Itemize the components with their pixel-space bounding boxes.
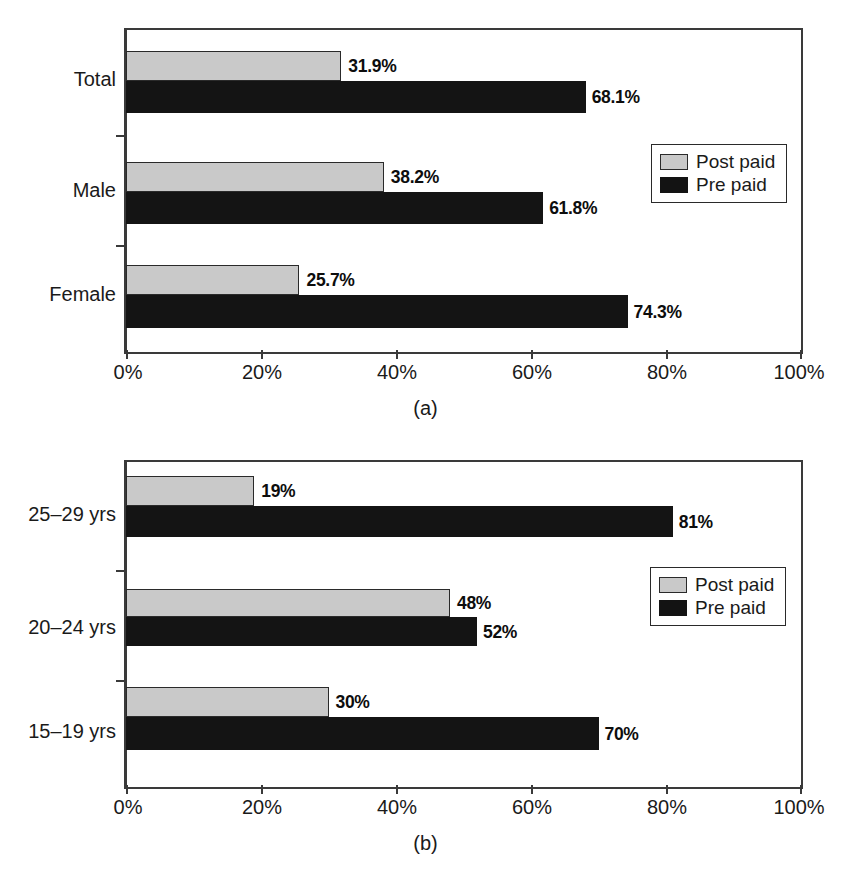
bar-value-female-post-paid: 25.7% [306,270,354,291]
x-axis-label-0: 0% [114,361,143,384]
legend-swatch-pre-paid-icon [660,177,688,193]
panel-caption-a: (a) [0,397,851,420]
category-label-20-24: 20–24 yrs [0,616,116,639]
bar-value-15-19-pre-paid: 70% [605,723,639,744]
legend-b: Post paid Pre paid [650,567,786,626]
bar-female-pre-paid: 74.3% [126,295,628,328]
bar-value-male-pre-paid: 61.8% [549,198,597,219]
bar-20-24-post-paid: 48% [126,589,450,617]
category-label-total: Total [0,68,116,91]
bar-value-female-pre-paid: 74.3% [634,301,682,322]
legend-label-post-paid: Post paid [696,152,775,171]
bar-value-20-24-post-paid: 48% [457,593,491,614]
plot-area-a: 31.9% 68.1% 38.2% 61.8% 25.7% 74.3% [126,28,803,354]
legend-label-pre-paid: Pre paid [695,598,766,617]
bar-total-pre-paid: 68.1% [126,81,586,113]
x-axis-tick [800,350,802,359]
x-axis-label-80: 80% [647,361,687,384]
x-axis-label-20: 20% [242,796,282,819]
bar-25-29-post-paid: 19% [126,476,254,506]
bar-female-post-paid: 25.7% [126,265,299,295]
x-axis-tick [531,785,533,794]
x-axis-tick [261,350,263,359]
figure-panel-a: Total Male Female 31.9% 68.1% 38.2% 61.8… [0,0,851,440]
x-axis-tick [396,785,398,794]
bar-male-post-paid: 38.2% [126,162,384,192]
legend-label-post-paid: Post paid [695,575,774,594]
category-label-male: Male [0,179,116,202]
x-axis-tick [800,785,802,794]
bar-15-19-post-paid: 30% [126,687,329,717]
category-label-15-19: 15–19 yrs [0,720,116,743]
legend-a: Post paid Pre paid [651,144,787,203]
figure-panel-b: 25–29 yrs 20–24 yrs 15–19 yrs 19% 81% 48… [0,432,851,873]
bar-value-total-pre-paid: 68.1% [592,87,640,108]
x-axis-label-60: 60% [512,361,552,384]
x-axis-tick [261,785,263,794]
x-axis-label-60: 60% [512,796,552,819]
legend-row-post-paid: Post paid [660,150,777,173]
legend-row-post-paid: Post paid [659,573,776,596]
x-axis-tick [666,350,668,359]
bar-15-19-pre-paid: 70% [126,717,599,750]
panel-caption-b: (b) [0,832,851,855]
bar-male-pre-paid: 61.8% [126,192,543,224]
x-axis-tick [666,785,668,794]
category-label-female: Female [0,283,116,306]
x-axis-tick [396,350,398,359]
bar-value-male-post-paid: 38.2% [391,167,439,188]
legend-label-pre-paid: Pre paid [696,175,767,194]
bar-value-25-29-pre-paid: 81% [679,511,713,532]
x-axis-tick [126,785,128,794]
x-axis-label-100: 100% [773,796,824,819]
legend-swatch-post-paid-icon [659,577,687,593]
bar-20-24-pre-paid: 52% [126,617,477,646]
x-axis-label-80: 80% [647,796,687,819]
x-axis-tick [126,350,128,359]
bar-value-total-post-paid: 31.9% [348,56,396,77]
bar-value-20-24-pre-paid: 52% [483,621,517,642]
x-axis-label-40: 40% [377,796,417,819]
legend-swatch-pre-paid-icon [659,600,687,616]
plot-area-b: 19% 81% 48% 52% 30% 70% [126,460,803,789]
category-label-25-29: 25–29 yrs [0,503,116,526]
x-axis-label-0: 0% [114,796,143,819]
x-axis-label-100: 100% [773,361,824,384]
legend-row-pre-paid: Pre paid [660,173,777,196]
legend-row-pre-paid: Pre paid [659,596,776,619]
legend-swatch-post-paid-icon [660,154,688,170]
bar-25-29-pre-paid: 81% [126,506,673,537]
bar-value-15-19-post-paid: 30% [336,692,370,713]
x-axis-tick [531,350,533,359]
bar-total-post-paid: 31.9% [126,51,341,81]
x-axis-label-40: 40% [377,361,417,384]
x-axis-label-20: 20% [242,361,282,384]
bar-value-25-29-post-paid: 19% [261,481,295,502]
